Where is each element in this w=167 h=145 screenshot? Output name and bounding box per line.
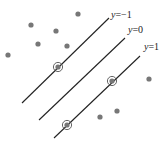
data-point — [53, 28, 58, 33]
svm-margin-diagram: y=−1y=0y=1 — [0, 0, 167, 145]
support-vector-point — [64, 122, 69, 127]
data-point — [5, 52, 10, 57]
line-label-2: y=1 — [143, 41, 159, 52]
data-point — [97, 114, 102, 119]
data-point — [28, 22, 33, 27]
line-label-0: y=−1 — [110, 9, 132, 20]
data-point — [114, 108, 119, 113]
line-label-1: y=0 — [127, 24, 143, 35]
support-vectors — [53, 62, 116, 129]
hyperplane-line-0 — [22, 18, 109, 103]
data-point — [35, 41, 40, 46]
data-point — [146, 76, 151, 81]
data-point — [75, 11, 80, 16]
hyperplane-lines — [22, 18, 140, 138]
support-vector-point — [109, 78, 114, 83]
support-vector-point — [55, 64, 60, 69]
data-point — [64, 43, 69, 48]
